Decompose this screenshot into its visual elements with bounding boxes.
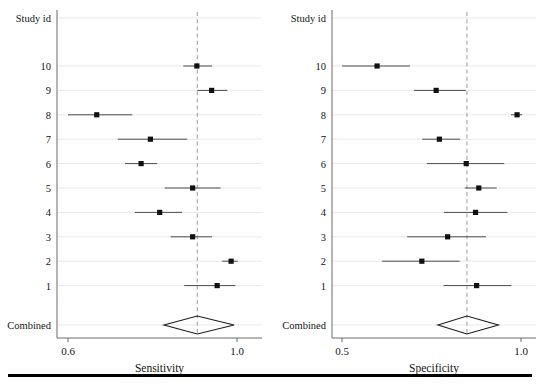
study-label-4: 4 (321, 207, 327, 218)
sensitivity-panel: 0.61.0Study id10987654321CombinedSensiti… (0, 0, 270, 386)
study-label-10: 10 (41, 61, 52, 72)
study-label-1: 1 (321, 281, 326, 292)
estimate-marker-2 (419, 259, 424, 264)
study-label-5: 5 (46, 183, 51, 194)
estimate-marker-8 (514, 112, 519, 117)
estimate-marker-9 (209, 88, 214, 93)
estimate-marker-3 (190, 234, 195, 239)
study-label-9: 9 (46, 85, 51, 96)
study-id-header: Study id (16, 13, 52, 24)
estimate-marker-4 (157, 210, 162, 215)
forest-plot-figure: 0.61.0Study id10987654321CombinedSensiti… (0, 0, 540, 386)
combined-label: Combined (282, 320, 326, 331)
footer-rule (8, 374, 532, 377)
estimate-marker-6 (464, 161, 469, 166)
estimate-marker-3 (445, 234, 450, 239)
study-label-6: 6 (46, 159, 51, 170)
study-label-4: 4 (46, 207, 52, 218)
study-label-5: 5 (321, 183, 326, 194)
estimate-marker-4 (473, 210, 478, 215)
study-label-2: 2 (321, 256, 326, 267)
study-label-6: 6 (321, 159, 326, 170)
specificity-plot-area: 0.51.0Study id10987654321CombinedSpecifi… (270, 0, 540, 386)
study-label-2: 2 (46, 256, 51, 267)
estimate-marker-7 (148, 137, 153, 142)
estimate-marker-1 (215, 283, 220, 288)
x-tick-label: 1.0 (230, 345, 244, 357)
estimate-marker-10 (194, 63, 199, 68)
x-tick-label: 1.0 (514, 345, 528, 357)
estimate-marker-8 (94, 112, 99, 117)
specificity-panel: 0.51.0Study id10987654321CombinedSpecifi… (270, 0, 540, 386)
combined-label: Combined (7, 320, 51, 331)
study-id-header: Study id (291, 13, 327, 24)
estimate-marker-6 (138, 161, 143, 166)
estimate-marker-2 (228, 259, 233, 264)
study-label-10: 10 (316, 61, 327, 72)
study-label-7: 7 (321, 134, 326, 145)
x-tick-label: 0.5 (335, 345, 349, 357)
estimate-marker-5 (190, 185, 195, 190)
study-label-3: 3 (46, 232, 51, 243)
sensitivity-plot-area: 0.61.0Study id10987654321CombinedSensiti… (0, 0, 270, 386)
study-label-8: 8 (46, 110, 51, 121)
study-label-3: 3 (321, 232, 326, 243)
study-label-1: 1 (46, 281, 51, 292)
study-label-7: 7 (46, 134, 51, 145)
x-tick-label: 0.6 (61, 345, 75, 357)
estimate-marker-1 (474, 283, 479, 288)
estimate-marker-10 (374, 63, 379, 68)
estimate-marker-9 (434, 88, 439, 93)
study-label-8: 8 (321, 110, 326, 121)
study-label-9: 9 (321, 85, 326, 96)
estimate-marker-5 (476, 185, 481, 190)
estimate-marker-7 (437, 137, 442, 142)
